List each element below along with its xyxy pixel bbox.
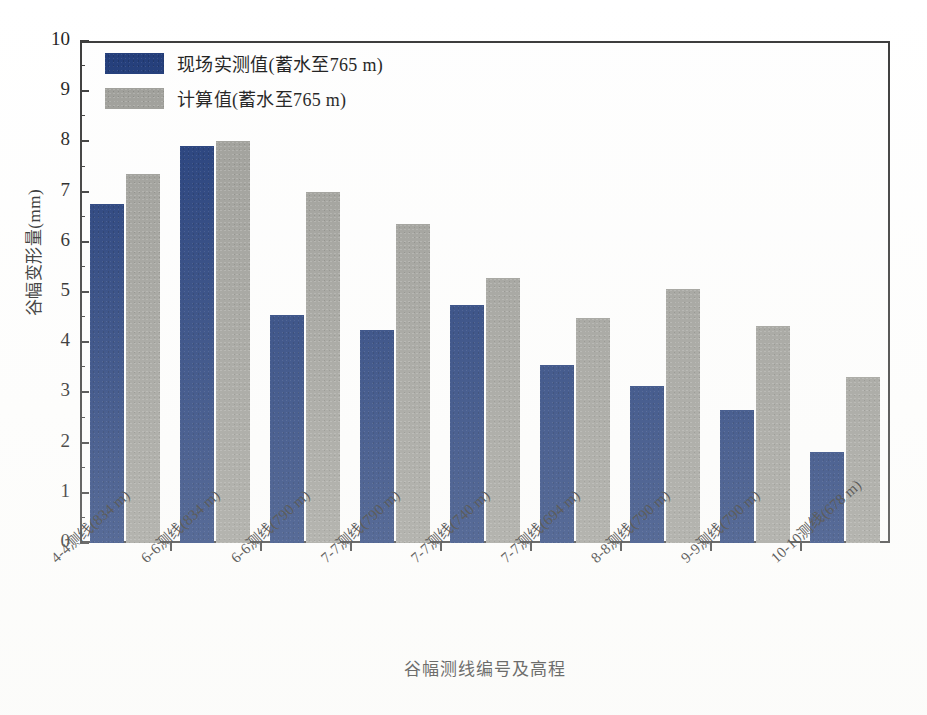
legend-swatch	[105, 53, 164, 74]
x-axis-category-label: 8-8测线(790 m)	[585, 484, 674, 567]
legend-item: 现场实测值(蓄水至765 m)	[105, 50, 383, 76]
x-axis-category-label: 7-7测线(694 m)	[495, 484, 584, 567]
x-axis-category-label: 4-4测线(834 m)	[45, 484, 134, 567]
chart-legend: 现场实测值(蓄水至765 m)计算值(蓄水至765 m)	[105, 50, 383, 111]
x-axis-category-label: 6-6测线(790 m)	[225, 484, 314, 567]
bar-chart-figure: 谷幅变形量(mm) 012345678910 4-4测线(834 m)6-6测线…	[0, 0, 927, 715]
legend-label: 计算值(蓄水至765 m)	[177, 85, 346, 111]
legend-item: 计算值(蓄水至765 m)	[105, 85, 383, 111]
x-axis-title: 谷幅测线编号及高程	[80, 655, 890, 680]
legend-label: 现场实测值(蓄水至765 m)	[177, 50, 383, 76]
x-axis-category-label: 7-7测线(740 m)	[405, 484, 494, 567]
legend-swatch	[105, 88, 164, 109]
x-axis-category-label: 10-10测线(678 m)	[765, 474, 865, 567]
x-axis-category-label: 9-9测线(790 m)	[675, 484, 764, 567]
x-axis-category-label: 6-6测线(834 m)	[135, 484, 224, 567]
x-axis-category-label: 7-7测线(790 m)	[315, 484, 404, 567]
